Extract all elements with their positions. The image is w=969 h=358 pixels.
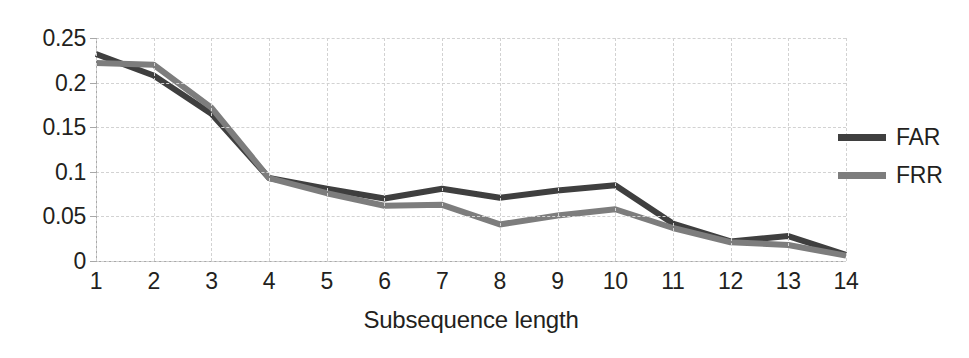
gridline-vertical xyxy=(442,38,443,261)
line-chart: 00.050.10.150.20.25 1234567891011121314 … xyxy=(0,0,969,358)
gridline-vertical xyxy=(788,38,789,261)
gridline-vertical xyxy=(500,38,501,261)
x-axis-tick-label: 5 xyxy=(297,268,357,295)
y-axis-tick-label: 0.25 xyxy=(6,25,86,52)
y-axis-tick-mark xyxy=(90,83,97,84)
gridline-vertical xyxy=(211,38,212,261)
x-axis-tick-label: 6 xyxy=(354,268,414,295)
gridline-horizontal xyxy=(96,83,846,84)
y-axis-tick-label: 0.1 xyxy=(6,158,86,185)
gridline-vertical xyxy=(384,38,385,261)
legend-item-frr[interactable]: FRR xyxy=(838,156,963,194)
gridline-horizontal xyxy=(96,38,846,39)
legend-swatch-icon xyxy=(838,172,886,179)
legend-label: FAR xyxy=(896,124,940,151)
chart-legend: FARFRR xyxy=(838,118,963,194)
y-axis-labels: 00.050.10.150.20.25 xyxy=(0,0,86,358)
gridline-vertical xyxy=(154,38,155,261)
x-axis-tick-label: 9 xyxy=(528,268,588,295)
x-axis-tick-label: 7 xyxy=(412,268,472,295)
x-axis-tick-label: 3 xyxy=(181,268,241,295)
gridline-horizontal xyxy=(96,261,846,262)
series-line-far xyxy=(96,54,846,255)
gridline-horizontal xyxy=(96,127,846,128)
gridline-vertical xyxy=(327,38,328,261)
gridline-vertical xyxy=(269,38,270,261)
y-axis-tick-mark xyxy=(90,216,97,217)
legend-swatch-icon xyxy=(838,134,886,141)
y-axis-tick-mark xyxy=(90,261,97,262)
x-axis-tick-label: 13 xyxy=(758,268,818,295)
x-axis-tick-label: 11 xyxy=(643,268,703,295)
gridline-vertical xyxy=(673,38,674,261)
series-line-frr xyxy=(96,63,846,256)
x-axis-tick-label: 2 xyxy=(124,268,184,295)
x-axis-labels: 1234567891011121314 xyxy=(96,268,846,302)
series-lines xyxy=(96,38,846,261)
y-axis-tick-label: 0.05 xyxy=(6,203,86,230)
y-axis-tick-mark xyxy=(90,127,97,128)
x-axis-tick-label: 8 xyxy=(470,268,530,295)
x-axis-tick-label: 14 xyxy=(816,268,876,295)
gridline-vertical xyxy=(615,38,616,261)
y-axis-tick-label: 0.2 xyxy=(6,69,86,96)
x-axis-title: Subsequence length xyxy=(96,306,846,334)
x-axis-tick-label: 1 xyxy=(66,268,126,295)
x-axis-tick-label: 4 xyxy=(239,268,299,295)
y-axis-tick-mark xyxy=(90,38,97,39)
legend-item-far[interactable]: FAR xyxy=(838,118,963,156)
x-axis-tick-label: 12 xyxy=(701,268,761,295)
y-axis-tick-label: 0.15 xyxy=(6,114,86,141)
plot-area xyxy=(96,38,846,261)
gridline-vertical xyxy=(96,38,97,261)
gridline-vertical xyxy=(558,38,559,261)
legend-label: FRR xyxy=(896,162,943,189)
y-axis-tick-mark xyxy=(90,172,97,173)
gridline-horizontal xyxy=(96,216,846,217)
gridline-horizontal xyxy=(96,172,846,173)
x-axis-tick-label: 10 xyxy=(585,268,645,295)
gridline-vertical xyxy=(731,38,732,261)
